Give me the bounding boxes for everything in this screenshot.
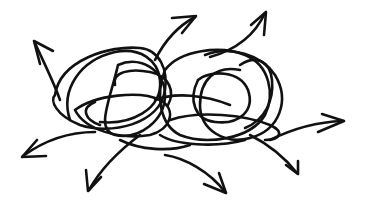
scribble-illustration <box>0 0 366 208</box>
arrow-shaft <box>165 155 225 192</box>
arrow-shaft <box>35 43 60 100</box>
arrow-shaft <box>270 121 343 140</box>
scribble-loop <box>86 102 100 125</box>
